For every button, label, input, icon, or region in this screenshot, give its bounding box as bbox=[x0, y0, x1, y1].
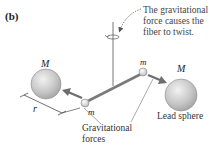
label-M-right: M bbox=[176, 63, 186, 74]
force-arrow-right bbox=[148, 75, 160, 80]
label-m-right: m bbox=[140, 57, 147, 67]
label-m-left: m bbox=[88, 107, 95, 117]
force-arrow-left bbox=[68, 92, 82, 98]
label-forces: forces bbox=[82, 134, 106, 144]
large-sphere-left bbox=[31, 69, 61, 99]
large-sphere-right bbox=[165, 79, 197, 111]
annotation-line-2: force causes the bbox=[143, 16, 204, 26]
small-sphere-left bbox=[81, 99, 89, 107]
label-gravitational: Gravitational bbox=[82, 123, 132, 133]
small-sphere-right bbox=[139, 68, 147, 76]
annotation-line-1: The gravitational bbox=[143, 5, 209, 15]
panel-label: (b) bbox=[5, 10, 19, 23]
annotation-line-3: fiber to twist. bbox=[143, 27, 194, 37]
leader-line-right bbox=[131, 79, 153, 122]
pointer-arrow-icon bbox=[120, 9, 141, 30]
label-lead-sphere: Lead sphere bbox=[157, 111, 203, 121]
cavendish-diagram: (b) The gravitational force causes the f… bbox=[0, 0, 219, 153]
torsion-rod bbox=[86, 73, 143, 102]
label-r: r bbox=[33, 103, 37, 114]
label-M-left: M bbox=[40, 58, 50, 69]
distance-leader bbox=[62, 108, 80, 113]
